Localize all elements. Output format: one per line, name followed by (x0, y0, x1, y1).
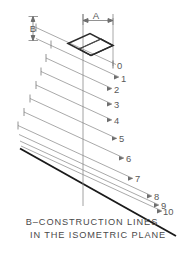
scale-mark-4: 4 (107, 115, 119, 126)
scale-mark-6: 6 (119, 153, 131, 164)
scale-label-7: 7 (135, 173, 140, 184)
isometric-rhombus-shape (68, 34, 113, 56)
construction-line-7 (18, 126, 133, 179)
construction-line-10 (21, 146, 162, 211)
scale-label-5: 5 (119, 133, 124, 144)
rhombus-outline (68, 34, 113, 56)
figure-page: A B 0 (0, 0, 184, 253)
scale-label-8: 8 (154, 191, 159, 202)
scale-mark-3: 3 (107, 99, 119, 110)
dimension-b-bottom-arrowhead (31, 36, 35, 41)
construction-line-2 (46, 58, 112, 89)
scale-mark-1: 1 (114, 73, 126, 84)
caption-line-1: B–CONSTRUCTION LINES (0, 216, 184, 229)
dimension-a-left-arrowhead (83, 19, 88, 23)
left-end-ticks-group (18, 24, 51, 130)
dimension-a-right-arrowhead (108, 19, 113, 23)
scale-label-1: 1 (121, 73, 126, 84)
caption-line-2: IN THE ISOMETRIC PLANE (0, 229, 184, 242)
construction-line-4 (36, 85, 112, 120)
scale-label-0: 0 (117, 60, 122, 71)
scale-mark-2: 2 (107, 84, 119, 95)
construction-line-3 (41, 72, 112, 105)
scale-label-6: 6 (126, 153, 131, 164)
construction-line-5 (30, 99, 117, 139)
scale-label-2: 2 (114, 84, 119, 95)
construction-line-1 (36, 39, 119, 78)
dimension-a-label: A (93, 10, 100, 21)
scale-label-3: 3 (114, 99, 119, 110)
rhombus-internal-diagonal (79, 39, 101, 49)
scale-mark-7: 7 (128, 173, 140, 184)
figure-caption: B–CONSTRUCTION LINES IN THE ISOMETRIC PL… (0, 216, 184, 242)
construction-line-8 (19, 135, 152, 197)
dimension-b-top-arrowhead (31, 17, 35, 22)
scale-mark-0: 0 (113, 60, 122, 71)
scale-mark-5: 5 (112, 133, 124, 144)
scale-label-4: 4 (114, 115, 119, 126)
dimension-b-label: B (30, 23, 36, 34)
